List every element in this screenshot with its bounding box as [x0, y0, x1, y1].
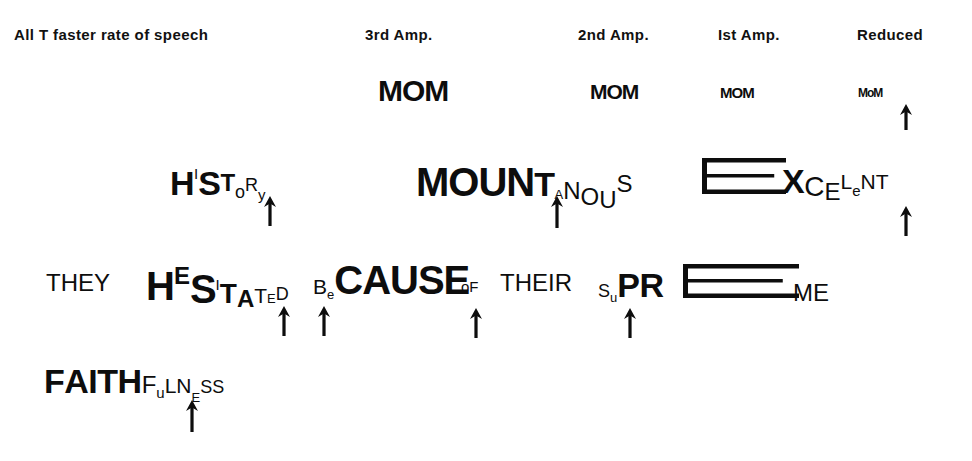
column-header-0: All T faster rate of speech: [14, 26, 208, 43]
column-header-3: Ist Amp.: [718, 26, 780, 43]
letter: u: [156, 386, 164, 400]
word-of: oF: [461, 280, 479, 294]
letter: N: [176, 377, 191, 396]
letter: o: [235, 184, 245, 200]
letter: U: [599, 189, 616, 211]
column-header-4: Reduced: [857, 26, 923, 43]
letter: T: [500, 272, 515, 294]
letter: T: [534, 169, 554, 200]
letter: o: [461, 280, 469, 294]
letter: T: [254, 287, 267, 306]
letter: E: [813, 282, 829, 304]
letter: T: [97, 366, 117, 397]
letter: F: [469, 280, 478, 294]
arrow-supreme: [622, 308, 638, 338]
letter: R: [639, 270, 663, 301]
letter: Y: [94, 272, 110, 294]
letter: E: [267, 293, 276, 305]
letter: I: [548, 272, 555, 294]
letter: U: [478, 164, 506, 200]
word-history: HISToRy: [170, 168, 266, 199]
arrow-hesitated-b: [316, 306, 332, 336]
arrow-excellent: [898, 206, 914, 236]
letter: E: [532, 272, 548, 294]
letter: E: [824, 181, 840, 203]
letter: T: [220, 281, 237, 306]
letter: S: [198, 168, 220, 199]
mom-word-3: MoM: [858, 86, 882, 100]
letter: R: [245, 177, 258, 193]
word-excellent: XCELeNT: [782, 166, 888, 197]
arrow-faithfulness: [184, 400, 200, 432]
mom-word-1: MOM: [590, 80, 638, 104]
letter: T: [46, 272, 61, 294]
letter: H: [61, 272, 78, 294]
letter: O: [581, 186, 600, 208]
elongated-e-supreme: [683, 264, 799, 298]
word-because: BeCAUSE: [313, 262, 469, 298]
speech-amplitude-figure: All T faster rate of speech3rd Amp.2nd A…: [0, 0, 972, 461]
letter: F: [44, 366, 64, 397]
letter: A: [237, 288, 254, 310]
letter: C: [804, 174, 824, 199]
letter: S: [212, 379, 224, 395]
word-hesitated: HESITATED: [146, 268, 289, 304]
arrow-hesitated-a: [276, 306, 292, 336]
letter: I: [194, 167, 198, 181]
letter: L: [840, 173, 852, 192]
letter: D: [276, 286, 289, 302]
letter: I: [88, 366, 97, 397]
column-header-1: 3rd Amp.: [365, 26, 433, 43]
letter: S: [598, 283, 610, 299]
word-their: THEIR: [500, 272, 572, 294]
letter: e: [327, 289, 334, 301]
letter: u: [610, 292, 617, 304]
letter: H: [170, 168, 194, 199]
letter: P: [617, 270, 639, 301]
arrow-mom-reduced: [898, 104, 914, 130]
letter: T: [220, 172, 235, 194]
column-header-2: 2nd Amp.: [578, 26, 649, 43]
mom-word-0: MOM: [378, 74, 448, 108]
arrow-mountainous: [549, 196, 565, 228]
letter: S: [200, 379, 212, 395]
letter: E: [174, 265, 190, 287]
letter: L: [165, 377, 177, 396]
letter: R: [555, 272, 572, 294]
letter: E: [78, 272, 94, 294]
elongated-e-excellent: [702, 158, 786, 194]
letter: H: [146, 268, 174, 304]
letter: N: [506, 164, 534, 200]
letter: B: [313, 278, 327, 297]
letter: H: [515, 272, 532, 294]
letter: A: [64, 366, 88, 397]
letter: N: [563, 180, 580, 202]
letter: e: [852, 184, 860, 198]
letter: U: [390, 262, 418, 298]
letter: C: [334, 262, 362, 298]
word-mountainous: MOUNTANOUS: [416, 164, 633, 200]
letter: O: [448, 164, 478, 200]
letter: H: [118, 366, 142, 397]
letter: N: [860, 173, 875, 192]
arrow-because-of: [468, 308, 484, 338]
mom-word-2: MOM: [720, 84, 754, 101]
letter: S: [418, 262, 444, 298]
letter: M: [416, 164, 448, 200]
word-faithfulness: FAITHFuLNESS: [44, 366, 224, 397]
word-they: THEY: [46, 272, 110, 294]
word-supreme: SuPR: [598, 270, 664, 301]
arrow-history: [262, 196, 278, 226]
letter: A: [362, 262, 390, 298]
letter: S: [617, 173, 633, 195]
letter: F: [142, 374, 157, 396]
letter: T: [876, 173, 889, 192]
letter: S: [190, 271, 216, 307]
